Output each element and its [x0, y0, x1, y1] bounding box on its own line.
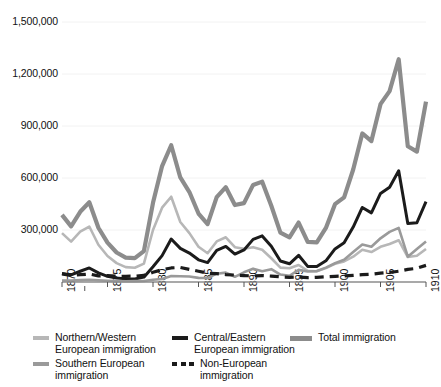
legend-item[interactable]: Southern European immigration — [33, 358, 144, 381]
series-line-2 — [62, 197, 426, 272]
legend-item[interactable]: Northern/Western European immigration — [33, 332, 156, 355]
line-swatch-gray — [33, 362, 49, 366]
data-series-group — [62, 59, 426, 281]
line-swatch-black — [172, 336, 188, 340]
line-swatch-light-gray — [33, 336, 49, 340]
series-line-1 — [62, 59, 426, 258]
legend-label: Non-European immigration — [200, 358, 267, 381]
chart-legend: Northern/Western European immigrationCen… — [0, 330, 441, 387]
legend-label: Total immigration — [318, 332, 396, 344]
axis-ticks — [62, 282, 426, 291]
legend-item[interactable]: Central/Eastern European immigration — [172, 332, 295, 355]
legend-label: Northern/Western European immigration — [55, 332, 156, 355]
immigration-line-chart-figure: 1,500,0001,200,000900,000600,000300,000 … — [0, 0, 441, 387]
legend-label: Central/Eastern European immigration — [194, 332, 295, 355]
legend-item[interactable]: Non-European immigration — [172, 358, 267, 381]
line-swatch-gray-thick — [290, 336, 312, 341]
legend-item[interactable]: Total immigration — [290, 332, 396, 344]
chart-plot-svg — [0, 0, 441, 387]
legend-label: Southern European immigration — [55, 358, 144, 381]
line-swatch-dashed-black — [172, 362, 194, 366]
